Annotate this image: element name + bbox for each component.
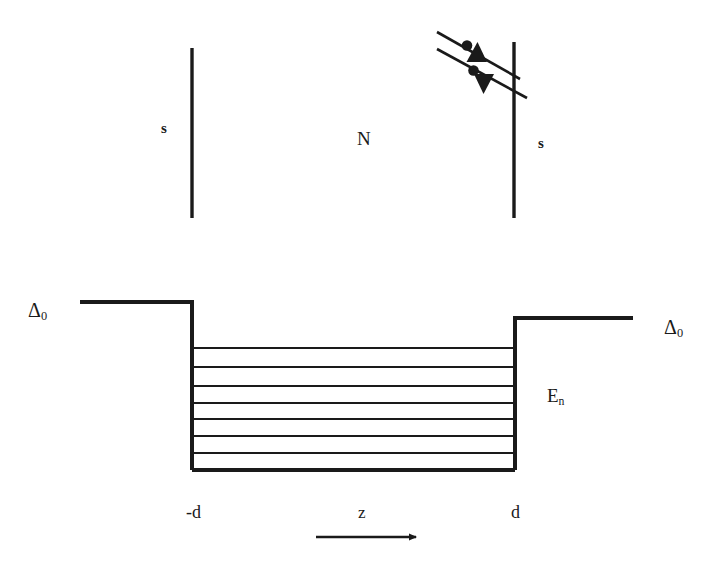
gap-subscript-left: 0 — [41, 309, 47, 323]
arrowhead-down-icon — [474, 74, 494, 94]
gap-subscript-right: 0 — [677, 326, 683, 340]
axis-tick-d: d — [511, 503, 520, 521]
gap-label-right: Δ0 — [664, 317, 683, 340]
energy-symbol: E — [547, 385, 559, 406]
sns-junction-figure: s N s Δ0 Δ0 En -d z d — [0, 0, 722, 568]
bottom-panel — [80, 302, 633, 537]
gap-label-left: Δ0 — [28, 300, 47, 323]
gap-profile-right — [515, 318, 633, 470]
axis-tick-minus-d: -d — [186, 503, 201, 521]
gap-profile-left — [80, 302, 192, 470]
energy-levels — [192, 348, 515, 453]
top-panel — [192, 32, 527, 218]
gap-symbol-right: Δ — [664, 316, 677, 338]
energy-levels-label: En — [547, 386, 565, 408]
electron-dot-upper — [462, 40, 473, 51]
normal-region-label: N — [357, 129, 371, 148]
gap-symbol-left: Δ — [28, 299, 41, 321]
figure-canvas — [0, 0, 722, 568]
right-superconductor-label: s — [538, 136, 544, 151]
energy-subscript: n — [559, 395, 565, 408]
left-superconductor-label: s — [161, 121, 167, 136]
axis-name-z: z — [358, 504, 366, 521]
